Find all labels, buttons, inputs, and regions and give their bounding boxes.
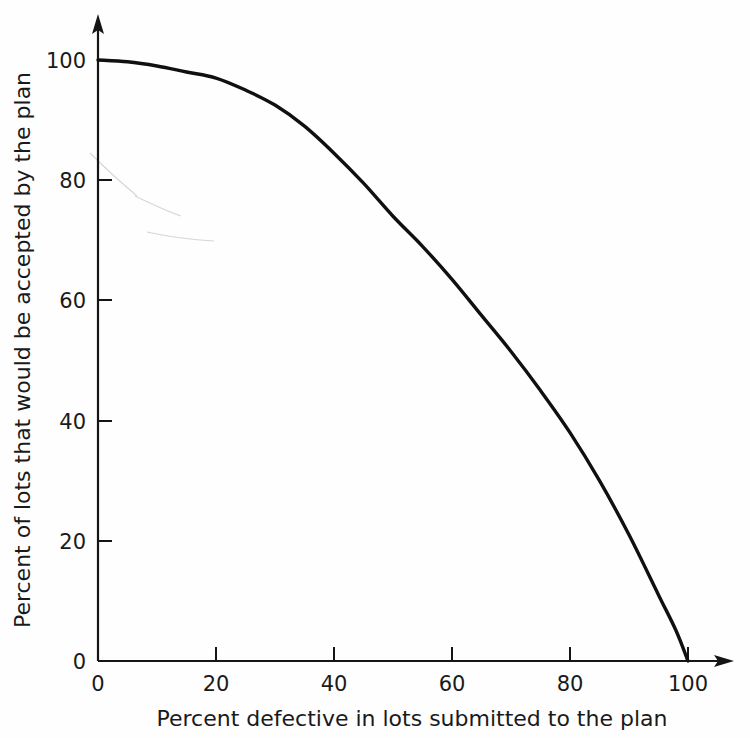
- x-axis-title: Percent defective in lots submitted to t…: [157, 706, 668, 731]
- smudge-stroke-3: [147, 232, 214, 241]
- x-tick-label-60: 60: [439, 672, 466, 696]
- chart-figure: 100 80 60 40 20 0 0 20 40 60 80 100 Perc…: [0, 0, 750, 738]
- x-tick-label-40: 40: [321, 672, 348, 696]
- oc-curve-chart: 100 80 60 40 20 0 0 20 40 60 80 100 Perc…: [0, 0, 750, 738]
- y-tick-label-60: 60: [59, 289, 86, 313]
- scan-artifacts: [90, 153, 214, 241]
- oc-curve-line: [98, 60, 688, 661]
- smudge-stroke-2: [135, 196, 181, 216]
- y-tick-label-40: 40: [59, 410, 86, 434]
- y-tick-label-20: 20: [59, 530, 86, 554]
- y-tick-label-100: 100: [46, 49, 86, 73]
- x-tick-label-20: 20: [203, 672, 230, 696]
- x-tick-label-80: 80: [557, 672, 584, 696]
- x-tick-label-0: 0: [91, 672, 104, 696]
- y-axis-tick-labels: 100 80 60 40 20 0: [46, 49, 86, 674]
- x-axis-tick-labels: 0 20 40 60 80 100: [91, 672, 708, 696]
- x-tick-label-100: 100: [668, 672, 708, 696]
- y-axis-ticks: [98, 60, 112, 541]
- y-axis-title: Percent of lots that would be accepted b…: [10, 72, 35, 628]
- x-axis-ticks: [216, 647, 688, 661]
- y-tick-label-80: 80: [59, 169, 86, 193]
- y-tick-label-0: 0: [73, 650, 86, 674]
